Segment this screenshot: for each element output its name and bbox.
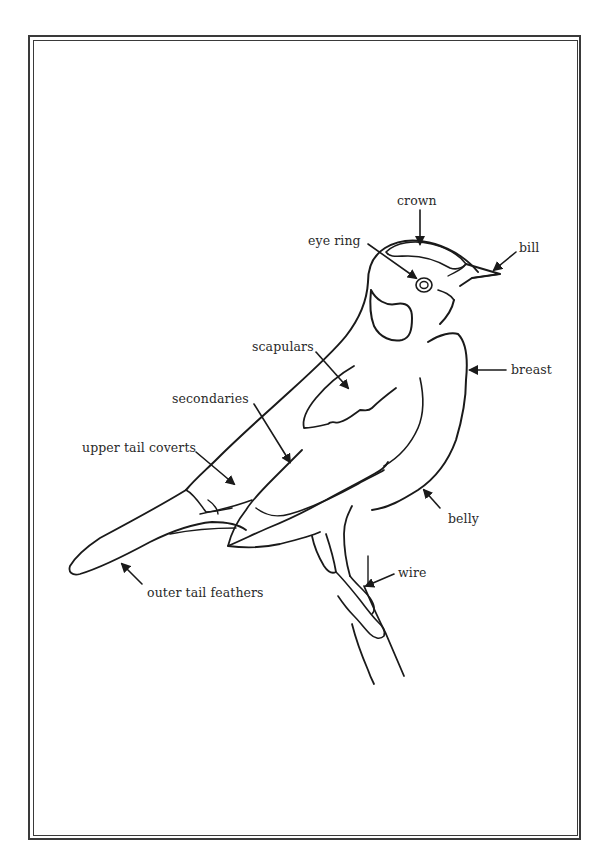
- wire-arrow: [366, 574, 394, 586]
- label-bill: bill: [519, 241, 539, 255]
- cheek-patch: [370, 290, 412, 340]
- outer-tail-feathers-arrow: [122, 564, 142, 584]
- eye-ring: [416, 278, 432, 292]
- bill-lower: [472, 274, 500, 278]
- face-line: [438, 290, 454, 300]
- label-scapulars: scapulars: [252, 340, 314, 354]
- label-wire: wire: [398, 566, 426, 580]
- scapulars: [304, 366, 397, 428]
- label-outer-tail-feathers: outer tail feathers: [147, 586, 264, 600]
- secondaries-wing: [228, 450, 388, 546]
- label-eye-ring: eye ring: [308, 234, 361, 248]
- label-breast: breast: [511, 363, 552, 377]
- wing-coverts-line: [384, 378, 423, 466]
- eye: [420, 282, 428, 289]
- leg-left: [312, 534, 336, 573]
- belly-arrow: [424, 490, 440, 508]
- breast-belly-outline: [372, 333, 467, 510]
- branch-2: [352, 624, 374, 684]
- outer-tail-feathers: [69, 490, 246, 575]
- secondaries-arrow: [254, 404, 290, 462]
- label-crown: crown: [397, 194, 437, 208]
- label-secondaries: secondaries: [172, 392, 249, 406]
- eye-ring-arrow: [368, 244, 416, 278]
- head-back-outline: [186, 241, 478, 490]
- upper-tail-coverts-arrow: [196, 452, 234, 484]
- throat-line: [440, 300, 454, 324]
- label-upper-tail-coverts: upper tail coverts: [82, 441, 196, 455]
- foot-2: [350, 576, 374, 614]
- label-belly: belly: [448, 512, 479, 526]
- branch: [364, 586, 404, 676]
- bill-arrow: [494, 252, 516, 270]
- bird-illustration: [0, 0, 611, 856]
- leg-right: [344, 506, 352, 576]
